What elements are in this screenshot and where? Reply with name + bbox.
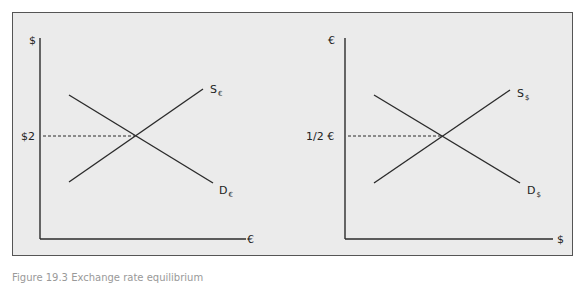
right-price-tick-label: 1/2 €	[306, 130, 334, 143]
figure-caption: Figure 19.3 Exchange rate equilibrium	[12, 272, 203, 283]
right-supply-label: S$	[517, 87, 529, 102]
right-supply-sub: $	[525, 94, 529, 102]
right-supply-main: S	[517, 87, 524, 100]
right-demand-curve	[374, 95, 520, 183]
right-demand-main: D	[527, 184, 535, 197]
right-demand-sub: $	[536, 191, 540, 199]
left-chart: $ € $2 S€ D€	[21, 34, 254, 246]
right-y-axis-label: €	[328, 34, 335, 47]
left-demand-sub: €	[228, 191, 232, 199]
right-x-axis-label: $	[557, 233, 564, 246]
left-supply-sub: €	[218, 90, 222, 98]
diagram-canvas: $ € $2 S€ D€ € $ 1/2 € S$ D$	[0, 0, 587, 285]
left-demand-curve	[69, 95, 213, 183]
left-y-axis-label: $	[29, 34, 36, 47]
right-demand-label: D$	[527, 184, 541, 199]
right-chart: € $ 1/2 € S$ D$	[306, 34, 564, 246]
left-price-tick-label: $2	[21, 130, 35, 143]
left-x-axis-label: €	[247, 233, 254, 246]
left-supply-main: S	[210, 83, 217, 96]
left-demand-main: D	[219, 184, 227, 197]
left-supply-label: S€	[210, 83, 222, 98]
left-demand-label: D€	[219, 184, 233, 199]
